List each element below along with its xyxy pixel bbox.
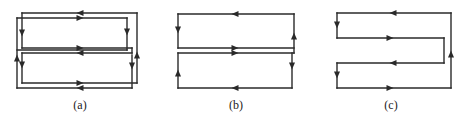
arrow-right-icon bbox=[387, 85, 394, 91]
diagram-c-label: (c) bbox=[371, 98, 411, 113]
diagram-a-label: (a) bbox=[60, 98, 100, 113]
arrow-left-icon bbox=[77, 10, 84, 16]
diagram-a-double-loop bbox=[14, 10, 140, 91]
arrow-down-icon bbox=[124, 29, 130, 36]
arrow-down-icon bbox=[19, 30, 25, 37]
arrow-left-icon bbox=[390, 10, 397, 16]
arrow-left-icon bbox=[232, 85, 239, 91]
arrow-down-icon bbox=[289, 63, 295, 70]
arrow-down-icon bbox=[334, 22, 340, 29]
arrow-right-icon bbox=[77, 15, 84, 21]
arrow-right-icon bbox=[77, 80, 84, 86]
arrow-right-icon bbox=[387, 35, 394, 41]
arrow-up-icon bbox=[175, 70, 181, 77]
diagram-b-stacked-loops bbox=[175, 11, 297, 91]
arrow-down-icon bbox=[129, 63, 135, 70]
arrow-right-icon bbox=[232, 45, 239, 51]
arrow-up-icon bbox=[134, 52, 140, 59]
arrow-left-icon bbox=[77, 50, 84, 56]
diagram-c-serpentine bbox=[334, 10, 454, 91]
arrow-up-icon bbox=[448, 51, 454, 58]
arrow-left-icon bbox=[390, 60, 397, 66]
arrow-left-icon bbox=[232, 11, 239, 17]
arrow-left-icon bbox=[77, 85, 84, 91]
arrow-up-icon bbox=[14, 55, 20, 62]
diagram-b-label: (b) bbox=[216, 98, 256, 113]
arrow-up-icon bbox=[291, 33, 297, 40]
arrow-down-icon bbox=[334, 72, 340, 79]
arrow-right-icon bbox=[232, 50, 239, 56]
arrow-down-icon bbox=[19, 62, 25, 69]
arrow-down-icon bbox=[175, 27, 181, 34]
